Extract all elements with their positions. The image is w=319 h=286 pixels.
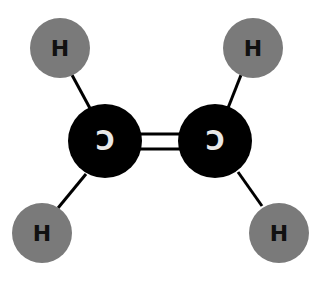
atom-label: H	[33, 221, 51, 246]
atom-label: C	[205, 126, 224, 156]
ethylene-molecule-diagram: H H H H C C	[0, 0, 319, 286]
carbon-atom-c2: C	[178, 104, 252, 178]
bond-h2-c2	[228, 75, 241, 108]
bond-c2-h4	[238, 172, 262, 206]
atom-label: H	[244, 36, 262, 61]
bond-h1-c1	[72, 75, 92, 112]
atom-label: C	[95, 126, 114, 156]
carbon-atom-c1: C	[68, 104, 142, 178]
hydrogen-atom-h3: H	[12, 203, 72, 263]
atom-label: H	[270, 221, 288, 246]
hydrogen-atom-h1: H	[30, 18, 90, 78]
bond-c1-h3	[58, 174, 86, 208]
hydrogen-atom-h2: H	[223, 18, 283, 78]
hydrogen-atom-h4: H	[249, 203, 309, 263]
atom-label: H	[51, 36, 69, 61]
